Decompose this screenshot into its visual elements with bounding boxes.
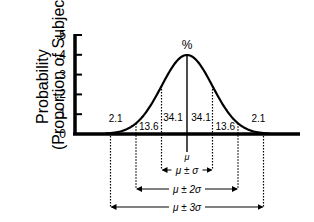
region-percentage-label: 2.1	[251, 113, 265, 124]
range-label: μ ± 2σ	[172, 184, 202, 195]
region-percentage-label: 13.6	[216, 121, 236, 132]
y-tick-label: .4	[56, 48, 66, 62]
y-tick-label: 0	[59, 127, 66, 141]
mean-label: μ	[184, 152, 190, 162]
region-percentage-label: 2.1	[109, 113, 123, 124]
normal-distribution-chart: .5.4.3.2.10%μ2.113.634.134.113.62.1μ ± σ…	[0, 0, 314, 222]
region-percentage-label: 34.1	[163, 112, 183, 123]
y-tick-label: .2	[56, 87, 66, 101]
y-tick-label: .5	[56, 28, 66, 42]
y-tick-label: .1	[56, 107, 66, 121]
region-percentage-label: 13.6	[139, 121, 159, 132]
peak-label: %	[182, 38, 193, 52]
y-tick-label: .3	[56, 68, 66, 82]
range-label: μ ± 3σ	[172, 202, 202, 213]
region-percentage-label: 34.1	[191, 112, 211, 123]
range-label: μ ± σ	[175, 165, 200, 176]
